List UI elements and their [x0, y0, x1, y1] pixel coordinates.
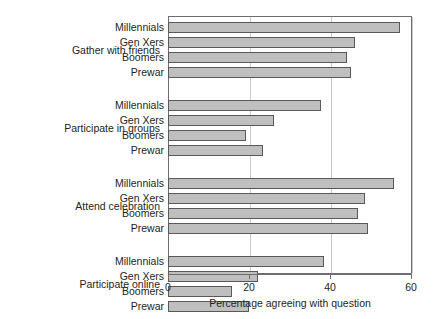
category-label-2-3: Prewar	[131, 223, 164, 234]
bar-fill	[168, 208, 358, 219]
gridline-60	[412, 17, 413, 273]
bar-fill	[168, 22, 400, 33]
bar-fill	[168, 223, 368, 234]
bar-fill	[168, 37, 355, 48]
bar-2-1	[168, 193, 365, 204]
category-label-1-0: Millennials	[115, 100, 164, 111]
bar-1-1	[168, 115, 274, 126]
bar-fill	[168, 67, 351, 78]
x-tick-label-40: 40	[310, 281, 350, 293]
bar-0-2	[168, 52, 347, 63]
bar-chart: MillennialsGen XersBoomersPrewarMillenni…	[0, 0, 445, 319]
x-tick-0	[168, 274, 169, 279]
category-label-3-3: Prewar	[131, 301, 164, 312]
category-label-3-0: Millennials	[115, 256, 164, 267]
x-axis-line	[168, 274, 412, 275]
bar-2-0	[168, 178, 394, 189]
bar-fill	[168, 193, 365, 204]
x-axis-title: Percentage agreeing with question	[168, 297, 412, 309]
bar-fill	[168, 100, 321, 111]
bar-fill	[168, 178, 394, 189]
bar-0-1	[168, 37, 355, 48]
bar-1-0	[168, 100, 321, 111]
bar-2-3	[168, 223, 368, 234]
x-tick-label-20: 20	[229, 281, 269, 293]
bars-layer	[168, 16, 412, 274]
bar-fill	[168, 115, 274, 126]
category-label-0-3: Prewar	[131, 67, 164, 78]
bar-0-3	[168, 67, 351, 78]
category-label-1-3: Prewar	[131, 145, 164, 156]
group-label-1: Participate in groups	[0, 122, 160, 134]
bar-3-0	[168, 256, 324, 267]
x-tick-label-60: 60	[391, 281, 431, 293]
bar-2-2	[168, 208, 358, 219]
bar-fill	[168, 145, 263, 156]
x-tick-60	[411, 274, 412, 279]
group-label-2: Attend celebration	[0, 200, 160, 212]
bar-1-3	[168, 145, 263, 156]
x-tick-20	[249, 274, 250, 279]
category-label-2-0: Millennials	[115, 178, 164, 189]
bar-fill	[168, 52, 347, 63]
group-label-3: Participate online	[0, 278, 160, 290]
group-labels: Gather with friendsParticipate in groups…	[0, 16, 60, 274]
bar-fill	[168, 256, 324, 267]
x-tick-40	[330, 274, 331, 279]
category-label-0-0: Millennials	[115, 22, 164, 33]
group-label-0: Gather with friends	[0, 44, 160, 56]
bar-0-0	[168, 22, 400, 33]
bar-1-2	[168, 130, 246, 141]
x-tick-label-0: 0	[148, 281, 188, 293]
bar-fill	[168, 130, 246, 141]
